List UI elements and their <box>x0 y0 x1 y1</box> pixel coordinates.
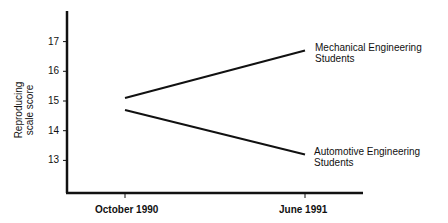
y-tick-label: 13 <box>48 154 59 165</box>
y-axis-label: Reproducing scale score <box>4 60 44 160</box>
y-tick-label: 15 <box>48 95 59 106</box>
x-tick-label: October 1990 <box>95 204 158 215</box>
y-tick-label: 16 <box>48 65 59 76</box>
chart-canvas <box>0 0 448 223</box>
series-label-mechanical: Mechanical Engineering Students <box>315 42 422 64</box>
y-tick-label: 14 <box>48 125 59 136</box>
y-tick-label: 17 <box>48 36 59 47</box>
series-line-automotive <box>125 110 305 155</box>
series-label-automotive: Automotive Engineering Students <box>314 146 420 168</box>
x-tick-label: June 1991 <box>279 204 327 215</box>
series-line-mechanical <box>125 51 305 99</box>
